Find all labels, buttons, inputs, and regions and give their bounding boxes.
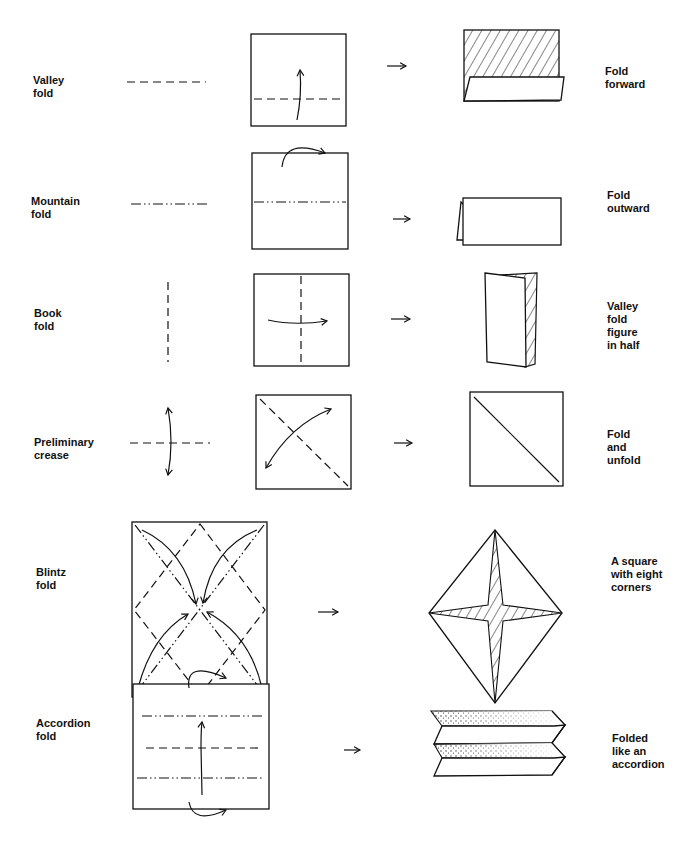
blintz-fold-row	[132, 522, 562, 703]
book-fold-row	[168, 273, 537, 367]
valley-fold-row	[127, 30, 564, 126]
double-arrow-icon	[168, 408, 171, 475]
folding-diagrams	[0, 0, 687, 851]
mountain-fold-row	[131, 148, 561, 249]
mountain-fold-paper	[252, 153, 348, 249]
book-fold-result	[485, 273, 537, 367]
valley-fold-result	[464, 30, 564, 101]
preliminary-crease-result	[470, 392, 563, 486]
preliminary-crease-row	[130, 392, 563, 489]
accordion-fold-result	[431, 711, 565, 776]
blintz-fold-result	[429, 530, 562, 703]
mountain-fold-result	[457, 198, 561, 245]
